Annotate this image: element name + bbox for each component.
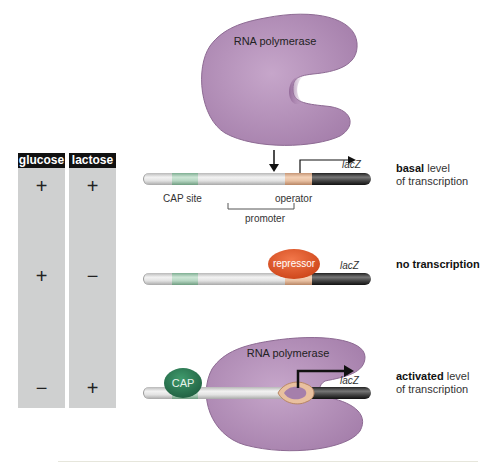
dna-strand-basal: [143, 173, 371, 185]
promoter-bracket: [227, 203, 297, 213]
operator: [285, 173, 312, 185]
svg-text:repressor: repressor: [273, 258, 316, 269]
lacz-label-repressed: lacZ: [340, 260, 359, 271]
rna-polymerase-top: RNA polymerase: [195, 8, 360, 150]
lacz-label-basal: lacZ: [342, 159, 361, 170]
activated-description: activated level of transcription: [396, 370, 469, 396]
repressor-protein: repressor: [267, 247, 321, 281]
lacz-gene: [312, 173, 371, 185]
lactose-column: lactose + − +: [69, 153, 116, 408]
dna-strand-repressed: [143, 273, 371, 285]
svg-text:RNA polymerase: RNA polymerase: [247, 347, 330, 359]
lactose-row3: +: [69, 377, 116, 400]
cap-site: [172, 173, 198, 185]
down-arrow-icon: [268, 150, 280, 174]
basal-description: basal level of transcription: [396, 162, 468, 188]
svg-text:CAP: CAP: [172, 377, 195, 389]
polymerase-label: RNA polymerase: [234, 35, 317, 47]
lactose-row2: −: [69, 265, 116, 288]
no-transcription-description: no transcription: [396, 258, 480, 271]
glucose-row3: −: [18, 377, 65, 400]
lacz-label-activated: lacZ: [340, 375, 359, 386]
lactose-header: lactose: [69, 153, 116, 168]
lactose-row1: +: [69, 175, 116, 198]
glucose-column: glucose + + −: [18, 153, 65, 408]
bottom-divider: [58, 461, 478, 462]
promoter-label: promoter: [245, 213, 285, 224]
cap-site-label: CAP site: [163, 193, 202, 204]
glucose-row1: +: [18, 175, 65, 198]
cap-protein: CAP: [163, 367, 203, 399]
glucose-header: glucose: [18, 153, 65, 168]
glucose-row2: +: [18, 265, 65, 288]
